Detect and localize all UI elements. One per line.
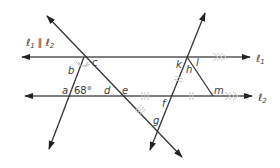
line-label-l2: ℓ2 [258, 92, 267, 105]
segment-hm [187, 57, 213, 96]
angle-label-k: k [176, 59, 183, 70]
svg-text:ℓ1∥ℓ2: ℓ1∥ℓ2 [26, 37, 55, 50]
angle-label-l: l [196, 57, 199, 68]
svg-text:ℓ1: ℓ1 [256, 53, 265, 66]
parallel-statement: ℓ1∥ℓ2 [26, 37, 55, 50]
triple-tick-transversal [135, 105, 146, 115]
angle-label-g: g [153, 115, 159, 126]
angle-label-c: c [92, 57, 98, 68]
angle-label-e: e [122, 85, 128, 96]
geometry-diagram: ℓ1∥ℓ2 ℓ1 ℓ2 b c a 68° d e f g k h l m [0, 0, 280, 168]
angle-label-h: h [186, 64, 192, 75]
angle-label-m: m [214, 85, 224, 96]
angle-label-b: b [68, 65, 74, 76]
transversal-kf [150, 13, 205, 150]
transversal-ab [49, 57, 84, 149]
line-label-l1: ℓ1 [256, 53, 265, 66]
angle-label-f: f [162, 98, 167, 109]
angle-label-a: a [62, 85, 68, 96]
given-angle-68: 68° [74, 85, 92, 96]
svg-text:ℓ2: ℓ2 [258, 92, 267, 105]
angle-label-d: d [104, 85, 111, 96]
